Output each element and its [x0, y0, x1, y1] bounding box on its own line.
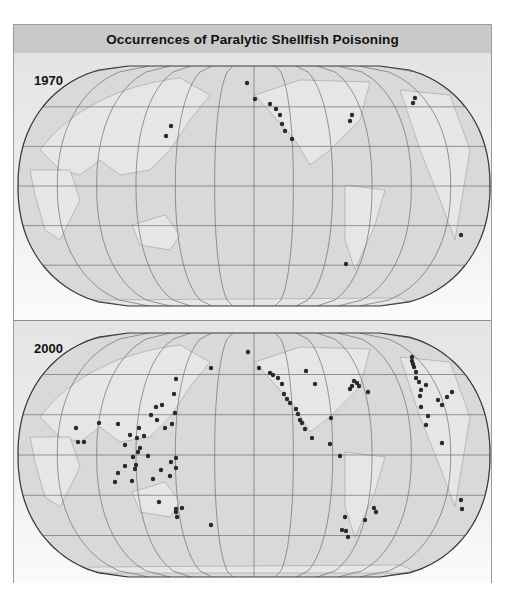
occurrence-dot: [164, 134, 168, 138]
occurrence-dot: [372, 506, 376, 510]
occurrence-dot: [173, 411, 177, 415]
occurrence-dot: [246, 350, 250, 354]
occurrence-dot: [131, 455, 135, 459]
occurrence-dot: [338, 454, 342, 458]
occurrence-dot: [417, 380, 421, 384]
occurrence-dot: [419, 405, 423, 409]
occurrence-dot: [414, 376, 418, 380]
world-maps: [0, 0, 507, 590]
occurrence-dot: [133, 467, 137, 471]
occurrence-dot: [134, 463, 138, 467]
occurrence-dot: [116, 422, 120, 426]
occurrence-dot: [253, 97, 257, 101]
occurrence-dot: [350, 113, 354, 117]
occurrence-dot: [163, 426, 167, 430]
occurrence-dot: [274, 107, 278, 111]
occurrence-dot: [146, 454, 150, 458]
occurrence-dot: [294, 407, 298, 411]
occurrence-dot: [137, 426, 141, 430]
occurrence-dot: [113, 480, 117, 484]
occurrence-dot: [366, 390, 370, 394]
occurrence-dot: [174, 377, 178, 381]
occurrence-dot: [97, 421, 101, 425]
occurrence-dot: [128, 433, 132, 437]
occurrence-dot: [329, 416, 333, 420]
occurrence-dot: [419, 388, 423, 392]
occurrence-dot: [313, 382, 317, 386]
occurrence-dot: [413, 96, 417, 100]
occurrence-dot: [174, 466, 178, 470]
occurrence-dot: [410, 355, 414, 359]
occurrence-dot: [414, 370, 418, 374]
occurrence-dot: [436, 398, 440, 402]
map-2000: [13, 333, 495, 577]
occurrence-dot: [135, 436, 139, 440]
occurrence-dot: [257, 366, 261, 370]
occurrence-dot: [175, 515, 179, 519]
occurrence-dot: [76, 440, 80, 444]
occurrence-dot: [450, 390, 454, 394]
occurrence-dot: [209, 366, 213, 370]
occurrence-dot: [138, 446, 142, 450]
occurrence-dot: [123, 443, 127, 447]
occurrence-dot: [116, 471, 120, 475]
occurrence-dot: [340, 528, 344, 532]
occurrence-dot: [154, 405, 158, 409]
occurrence-dot: [168, 474, 172, 478]
occurrence-dot: [123, 464, 127, 468]
occurrence-dot: [151, 477, 155, 481]
occurrence-dot: [283, 129, 287, 133]
occurrence-dot: [350, 384, 354, 388]
occurrence-dot: [290, 137, 294, 141]
occurrence-dot: [357, 384, 361, 388]
occurrence-dot: [74, 426, 78, 430]
occurrence-dot: [180, 506, 184, 510]
occurrence-dot: [276, 376, 280, 380]
occurrence-dot: [169, 460, 173, 464]
occurrence-dot: [426, 414, 430, 418]
occurrence-dot: [328, 442, 332, 446]
occurrence-dot: [288, 401, 292, 405]
occurrence-dot: [271, 373, 275, 377]
occurrence-dot: [296, 412, 300, 416]
occurrence-dot: [285, 397, 289, 401]
occurrence-dot: [460, 507, 464, 511]
occurrence-dot: [149, 413, 153, 417]
occurrence-dot: [310, 436, 314, 440]
occurrence-dot: [174, 507, 178, 511]
map-1970: [13, 66, 495, 306]
occurrence-dot: [363, 518, 367, 522]
occurrence-dot: [136, 450, 140, 454]
occurrence-dot: [172, 392, 176, 396]
occurrence-dot: [459, 498, 463, 502]
occurrence-dot: [170, 422, 174, 426]
occurrence-dot: [159, 468, 163, 472]
occurrence-dot: [142, 434, 146, 438]
occurrence-dot: [280, 382, 284, 386]
occurrence-dot: [282, 392, 286, 396]
occurrence-dot: [303, 427, 307, 431]
occurrence-dot: [348, 119, 352, 123]
occurrence-dot: [411, 101, 415, 105]
occurrence-dot: [169, 124, 173, 128]
occurrence-dot: [160, 403, 164, 407]
occurrence-dot: [245, 81, 249, 85]
occurrence-dot: [157, 500, 161, 504]
occurrence-dot: [344, 529, 348, 533]
occurrence-dot: [459, 233, 463, 237]
occurrence-dot: [424, 423, 428, 427]
occurrence-dot: [82, 440, 86, 444]
occurrence-dot: [304, 369, 308, 373]
occurrence-dot: [174, 456, 178, 460]
occurrence-dot: [278, 113, 282, 117]
occurrence-dot: [374, 510, 378, 514]
occurrence-dot: [280, 122, 284, 126]
occurrence-dot: [440, 441, 444, 445]
occurrence-dot: [268, 102, 272, 106]
occurrence-dot: [300, 421, 304, 425]
occurrence-dot: [346, 535, 350, 539]
occurrence-dot: [209, 523, 213, 527]
occurrence-dot: [418, 394, 422, 398]
occurrence-dot: [155, 418, 159, 422]
occurrence-dot: [412, 365, 416, 369]
